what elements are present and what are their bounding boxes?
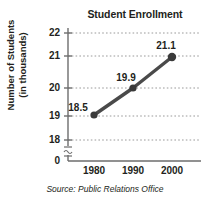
y-tick-label-22: 22 xyxy=(38,28,60,38)
data-label-2000: 21.1 xyxy=(150,41,182,51)
axis-break-icon xyxy=(64,147,72,156)
y-tick-label-18: 18 xyxy=(38,135,60,145)
x-tick-label-1990: 1990 xyxy=(113,166,153,176)
chart-figure: Student Enrollment Number of Students (i… xyxy=(0,0,210,201)
x-tick-label-1980: 1980 xyxy=(74,166,114,176)
data-point-marker-2000 xyxy=(168,53,176,61)
x-tick-label-2000: 2000 xyxy=(152,166,192,176)
y-tick-label-20: 20 xyxy=(38,83,60,93)
source-note: Source: Public Relations Office xyxy=(0,184,210,194)
y-tick-label-19: 19 xyxy=(38,111,60,121)
data-label-1980: 18.5 xyxy=(62,103,94,113)
data-label-1990: 19.9 xyxy=(110,73,142,83)
y-tick-label-0: 0 xyxy=(38,156,60,166)
data-point-marker-1990 xyxy=(129,84,136,91)
y-tick-label-21: 21 xyxy=(38,51,60,61)
